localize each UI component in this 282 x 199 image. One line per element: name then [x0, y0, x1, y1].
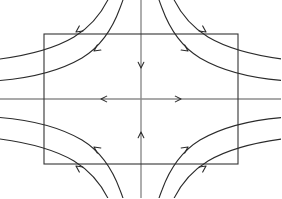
trajectory-q2-outer — [0, 0, 120, 59]
q3-outer-arrow — [74, 163, 83, 172]
trajectory-q1-outer — [163, 0, 282, 59]
trajectory-q4-inner — [155, 118, 281, 199]
trajectory-q2-inner — [0, 0, 127, 81]
trajectory-q4-outer — [163, 139, 282, 198]
q4-outer-arrow — [199, 163, 208, 172]
phase-portrait-figure — [0, 0, 281, 198]
axes-group — [0, 0, 281, 198]
phase-portrait-canvas — [0, 0, 281, 198]
q1-outer-arrow — [199, 26, 208, 35]
q2-outer-arrow — [74, 26, 83, 35]
trajectory-q3-outer — [0, 139, 120, 198]
trajectory-q1-inner — [155, 0, 281, 81]
trajectory-q3-inner — [0, 118, 127, 199]
